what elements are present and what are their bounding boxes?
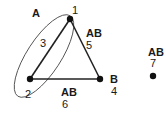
node-7-label: 7 [150,58,156,69]
node-1-label: 1 [72,5,78,16]
edge-5-group-label: AB [86,28,102,39]
diagram-canvas: A 1 3 AB 5 2 B 4 AB 6 AB 7 [0,0,166,117]
edge-6-label: 6 [62,99,68,110]
edge-3 [30,19,70,79]
edge-6-group-label: AB [61,87,77,98]
node-4-group-label: B [110,74,118,85]
node-1 [67,16,73,22]
node-2-label: 2 [25,89,31,100]
edge-5-label: 5 [86,40,92,51]
edge-3-label: 3 [40,38,46,49]
node-7 [150,73,156,79]
node-2 [27,76,33,82]
hyperedge-a-label: A [32,8,40,19]
node-4 [97,76,103,82]
node-4-label: 4 [111,86,117,97]
